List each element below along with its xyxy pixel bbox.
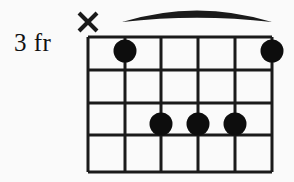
- barre-arc-shape: [122, 10, 272, 22]
- chord-diagram-canvas: [0, 0, 294, 182]
- barre-arc: [122, 10, 272, 22]
- chord-diagram: 3 fr: [0, 0, 294, 182]
- finger-dot-string-4-fret-3: [187, 113, 210, 136]
- mute-marker-group: [79, 13, 97, 31]
- finger-dot-string-6-fret-1: [261, 40, 284, 63]
- finger-dot-string-2-fret-1: [114, 40, 137, 63]
- finger-dot-string-3-fret-3: [150, 113, 173, 136]
- finger-dot-string-5-fret-3: [224, 113, 247, 136]
